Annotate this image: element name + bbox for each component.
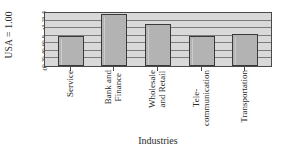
bar xyxy=(145,24,171,66)
bar-series xyxy=(45,13,271,66)
bar xyxy=(189,36,215,66)
x-axis-label-text: Bank andFinance xyxy=(103,70,123,104)
bar-chart-figure: USA = 1.00 00.20.40.60.811.21.4 ServiceB… xyxy=(0,0,283,154)
bar xyxy=(232,34,258,66)
x-axis-label-text: Wholesaleand Retail xyxy=(147,70,167,108)
x-axis-label-text: Tele-communication xyxy=(191,70,211,126)
y-axis-title-container: USA = 1.00 xyxy=(0,0,18,70)
plot-area xyxy=(44,12,272,67)
x-axis-category-labels: ServiceBank andFinanceWholesaleand Retai… xyxy=(44,70,272,132)
bar xyxy=(101,14,127,66)
bar xyxy=(58,36,84,66)
y-axis-title: USA = 1.00 xyxy=(4,11,14,58)
x-axis-label-text: Transportation xyxy=(239,70,249,123)
x-axis-label-text: Service xyxy=(65,70,75,97)
y-axis-tick-labels: 00.20.40.60.811.21.4 xyxy=(18,11,44,67)
x-axis-title: Industries xyxy=(44,135,272,146)
x-axis-label: Transportation xyxy=(213,70,275,132)
